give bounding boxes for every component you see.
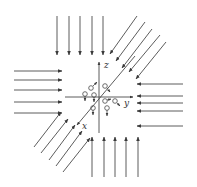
- arrow-group-bottom: [92, 137, 138, 177]
- flow-diagram: z y x: [0, 0, 197, 187]
- coordinate-axes: [65, 56, 135, 133]
- y-axis-label: y: [123, 98, 130, 108]
- z-axis-label: z: [103, 60, 109, 70]
- arrow-group-right: [137, 84, 183, 126]
- arrow-group-left: [14, 71, 62, 113]
- x-axis-label: x: [82, 121, 87, 131]
- arrow-group-top-right: [110, 16, 166, 79]
- arrow-group-top: [57, 16, 103, 55]
